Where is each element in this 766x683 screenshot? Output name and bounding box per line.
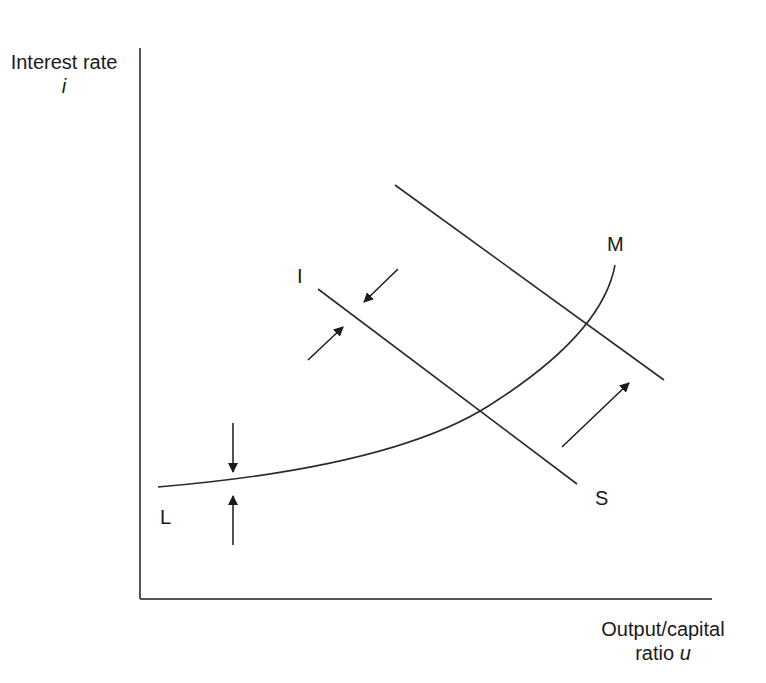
is-line [318, 289, 577, 484]
is-inward-arrow [364, 269, 398, 302]
y-axis-symbol: i [2, 74, 126, 98]
x-axis-label-line2: ratio [635, 642, 674, 664]
diagram-canvas [0, 0, 766, 683]
lm-end-label: M [607, 232, 624, 256]
is-end-label: S [595, 486, 608, 510]
is-shifted-line [395, 185, 664, 380]
lm-curve [158, 265, 615, 487]
is-start-label: I [297, 264, 303, 288]
lm-start-label: L [160, 505, 171, 529]
is-outward-arrow [308, 327, 343, 360]
is-shift-arrow [562, 383, 629, 447]
x-axis-label-text: Output/capital [578, 617, 748, 641]
y-axis-label: Interest rate i [2, 50, 126, 98]
x-axis-label: Output/capital ratio u [578, 617, 748, 665]
y-axis-label-text: Interest rate [2, 50, 126, 74]
x-axis-symbol: u [680, 642, 691, 664]
